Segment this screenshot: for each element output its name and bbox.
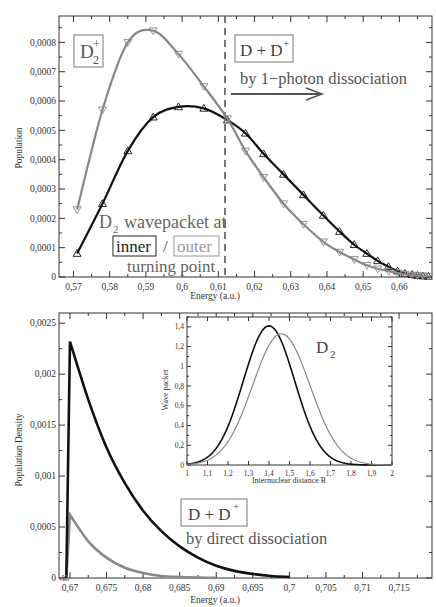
y-tick-label: 0,8 [175,382,185,391]
y-tick-label: 0,0008 [30,38,56,48]
ddplus-direct-label: D + D [188,505,231,524]
y-tick-label: 1,4 [175,322,185,331]
turning-point-label: turning point [127,257,216,276]
outer-label: outer [177,237,212,256]
y-tick-label: 0,4 [175,421,185,430]
y-tick-label: 0,0015 [30,420,56,430]
y-tick-label: 0,0005 [30,126,56,136]
y-tick-label: 0 [51,272,56,282]
wavepacket-sub: 2 [113,223,119,235]
y-tick-label: 1 [180,362,184,371]
x-tick-label: 0,66 [391,282,408,292]
top-x-axis-label: Energy (a.u.) [190,291,240,302]
bottom-x-axis-label: Energy (a.u.) [190,595,240,606]
ddplus-photon-sup: + [283,37,289,49]
x-tick-label: 0,71 [354,583,371,593]
wavepacket-rest: wavepacket at [124,212,226,232]
y-tick-label: 0,002 [35,369,57,379]
x-tick-label: 0,69 [208,583,225,593]
x-tick-label: 0,62 [246,282,263,292]
x-tick-label: 0,705 [315,583,337,593]
x-tick-label: 0,715 [388,583,410,593]
y-tick-label: 1,2 [175,342,185,351]
x-tick-label: 2 [390,469,394,478]
x-tick-label: 0,65 [355,282,372,292]
figure: 0,570,580,590,60,610,620,630,640,650,66 … [0,0,436,607]
x-tick-label: 1 [185,469,189,478]
x-tick-label: 0,675 [96,583,118,593]
bottom-plot: 0,670,6750,680,6850,690,6950,70,7050,710… [14,313,432,606]
inset-d2-sub: 2 [330,348,336,360]
y-tick-label: 0,2 [175,441,185,450]
x-tick-label: 1,1 [203,469,213,478]
x-tick-label: 0,57 [65,282,82,292]
ddplus-photon-label: D + D [240,41,283,60]
y-tick-label: 0,6 [175,401,185,410]
y-tick-label: 0 [180,461,184,470]
x-tick-label: 0,6 [176,282,188,292]
x-tick-label: 0,695 [242,583,264,593]
d2plus-label: D [80,41,94,62]
y-tick-label: 0,001 [35,471,57,481]
y-tick-label: 0 [51,573,56,583]
x-tick-label: 0,63 [282,282,299,292]
inset-x-axis-label: Internuclear distance R [252,476,327,485]
wavepacket-label: D [99,212,112,232]
x-tick-label: 0,64 [319,282,336,292]
d2plus-sup: + [93,37,100,51]
inset-plot: 11,11,21,31,41,51,61,71,81,92 00,20,40,6… [161,317,394,485]
y-tick-label: 0,0007 [30,67,56,77]
inset-d2-label: D [316,338,328,357]
y-tick-label: 0,0003 [30,184,56,194]
bottom-y-axis-label: Population Density [14,413,24,486]
photon-dissociation-label: by 1−photon dissociation [240,69,407,88]
y-tick-label: 0,0005 [30,522,56,532]
y-tick-label: 0,0001 [30,243,56,253]
x-tick-label: 1,8 [346,469,356,478]
y-tick-label: 0,0002 [30,214,56,224]
x-tick-label: 0,67 [62,583,79,593]
top-plot: 0,570,580,590,60,610,620,630,640,650,66 … [14,16,432,302]
x-tick-label: 1,7 [326,469,336,478]
x-tick-label: 0,61 [210,282,227,292]
y-tick-label: 0,0006 [30,96,56,106]
x-tick-label: 1,2 [223,469,233,478]
top-y-axis-label: Population [14,127,24,168]
ddplus-direct-sup: + [233,500,239,512]
x-tick-label: 0,58 [101,282,118,292]
inset-y-axis-label: Wave packet [161,369,170,411]
y-tick-label: 0,0025 [30,318,56,328]
inner-label: inner [116,237,151,256]
slash-label: / [163,237,168,256]
x-tick-label: 0,685 [169,583,191,593]
x-tick-label: 0,59 [138,282,155,292]
x-tick-label: 0,68 [135,583,152,593]
x-tick-label: 1,9 [367,469,377,478]
d2plus-sub: 2 [93,53,99,67]
direct-dissociation-label: by direct dissociation [186,529,327,548]
y-tick-label: 0,0004 [30,155,56,165]
x-tick-label: 0,7 [283,583,295,593]
